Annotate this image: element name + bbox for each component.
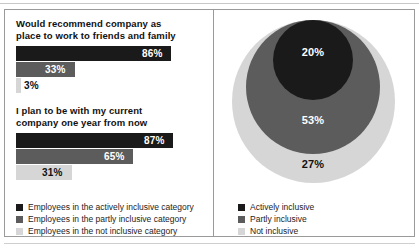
legend-item-actively-inclusive[interactable]: Actively inclusive — [238, 202, 408, 213]
legend-item-label: Employees in the actively inclusive cate… — [28, 202, 194, 213]
bar-row: 3% — [16, 78, 213, 93]
legend-item-actively-inclusive[interactable]: Employees in the actively inclusive cate… — [16, 202, 212, 213]
circle-value-label-actively-inclusive: 20% — [283, 46, 343, 58]
top-rule — [0, 3, 419, 4]
bar-not-inclusive[interactable] — [16, 78, 21, 93]
bar-group-1-bars: 86% 33% 3% — [16, 46, 213, 92]
page-top-strip — [0, 0, 419, 8]
bar-group-1: Would recommend company as place to work… — [5, 18, 213, 92]
legend-item-label: Employees in the not inclusive category — [28, 226, 177, 237]
bar-group-2: I plan to be with my current company one… — [5, 105, 213, 179]
legend-swatch-icon — [16, 228, 23, 235]
bar-value-label: 86% — [142, 46, 163, 61]
legend-item-label: Partly inclusive — [250, 214, 307, 225]
circle-value-label-not-inclusive: 27% — [283, 158, 343, 170]
legend-item-not-inclusive[interactable]: Employees in the not inclusive category — [16, 226, 212, 237]
figure-root: Would recommend company as place to work… — [0, 0, 419, 248]
legend-swatch-icon — [238, 204, 245, 211]
bar-chart-legend: Employees in the actively inclusive cate… — [16, 202, 212, 238]
legend-item-label: Not inclusive — [250, 226, 298, 237]
legend-swatch-icon — [16, 216, 23, 223]
bar-value-label: 87% — [144, 133, 165, 148]
nested-circles-chart: 20% 53% 27% — [214, 10, 414, 196]
legend-swatch-icon — [16, 204, 23, 211]
legend-item-label: Employees in the partly inclusive catego… — [28, 214, 186, 225]
circle-chart-legend: Actively inclusive Partly inclusive Not … — [238, 202, 408, 238]
bar-row: 33% — [16, 62, 213, 77]
circle-value-label-partly-inclusive: 53% — [283, 114, 343, 126]
bar-group-1-title: Would recommend company as place to work… — [16, 18, 213, 42]
bar-value-label: 31% — [42, 165, 63, 180]
bar-value-label: 65% — [104, 149, 125, 164]
legend-item-partly-inclusive[interactable]: Employees in the partly inclusive catego… — [16, 214, 212, 225]
bar-charts-panel: Would recommend company as place to work… — [5, 10, 213, 236]
legend-item-label: Actively inclusive — [250, 202, 314, 213]
legend-item-partly-inclusive[interactable]: Partly inclusive — [238, 214, 408, 225]
bottom-rule — [4, 243, 415, 244]
legend-swatch-icon — [238, 228, 245, 235]
bar-value-label: 3% — [24, 78, 39, 93]
legend-swatch-icon — [238, 216, 245, 223]
bar-row: 86% — [16, 46, 213, 61]
bar-value-label: 33% — [45, 62, 66, 77]
circle-chart-panel: 20% 53% 27% Actively inclusive Partly in… — [214, 10, 414, 236]
bar-row: 65% — [16, 149, 213, 164]
legend-item-not-inclusive[interactable]: Not inclusive — [238, 226, 408, 237]
circle-actively-inclusive[interactable] — [273, 20, 353, 100]
bar-row: 31% — [16, 165, 213, 180]
bar-row: 87% — [16, 133, 213, 148]
bar-group-2-title: I plan to be with my current company one… — [16, 105, 213, 129]
bar-group-2-bars: 87% 65% 31% — [16, 133, 213, 179]
